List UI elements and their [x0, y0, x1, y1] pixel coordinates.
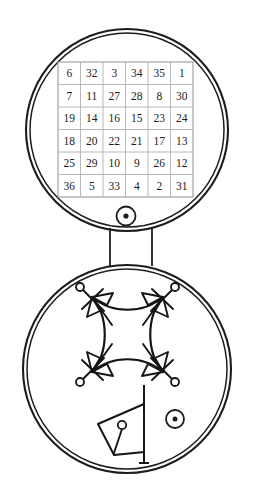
magic-cell: 20: [86, 135, 98, 147]
magic-cell: 36: [64, 180, 76, 192]
sun-dot-icon: [123, 213, 128, 218]
sigil-quadrilateral-group: [98, 404, 144, 455]
magic-cell: 33: [109, 180, 121, 192]
magic-cell: 28: [131, 90, 143, 102]
magic-cell: 7: [66, 90, 72, 102]
quadrilateral-ring-icon: [118, 421, 126, 429]
corner-ring-icon: [171, 283, 179, 291]
magic-cell: 13: [176, 135, 188, 147]
magic-cell: 34: [131, 67, 143, 79]
magic-cell: 31: [176, 180, 188, 192]
magic-cell: 24: [176, 112, 188, 124]
magic-square: 6 32 3 34 35 1 7 11 27 28 8 30 19 14 16 …: [58, 62, 193, 197]
sun-symbol-lower: [166, 410, 184, 428]
medallion-connector: [110, 228, 152, 266]
corner-ring-icon: [171, 378, 179, 386]
magic-cell: 27: [109, 90, 121, 102]
sun-dot-icon: [173, 417, 178, 422]
magic-cell: 22: [109, 135, 121, 147]
magic-cell: 35: [154, 67, 166, 79]
magic-cell: 25: [64, 157, 76, 169]
magic-cell: 12: [176, 157, 188, 169]
lower-disc: [23, 265, 231, 473]
sigil-corner-top-right: [142, 283, 179, 325]
magic-cell: 8: [156, 90, 162, 102]
magic-cell: 19: [64, 112, 76, 124]
magic-cell: 32: [86, 67, 98, 79]
magic-cell: 1: [179, 67, 185, 79]
magic-cell: 29: [86, 157, 98, 169]
lower-disc-outer-ring: [23, 265, 231, 473]
magic-cell: 14: [86, 112, 98, 124]
magic-cell: 3: [111, 67, 117, 79]
corner-ring-icon: [76, 378, 84, 386]
quadrilateral-stem: [114, 429, 122, 453]
magic-cell: 16: [109, 112, 121, 124]
magic-cell: 18: [64, 135, 76, 147]
corner-ring-icon: [76, 283, 84, 291]
magic-cell: 30: [176, 90, 188, 102]
magic-cell: 9: [134, 157, 140, 169]
sigil-concave-square: [92, 297, 163, 372]
sigil-corner-top-left: [76, 283, 113, 325]
magic-cell: 15: [131, 112, 143, 124]
magic-cell: 2: [156, 180, 162, 192]
magic-cell: 26: [154, 157, 166, 169]
magic-cell: 11: [86, 90, 97, 102]
magic-cell: 17: [154, 135, 166, 147]
sigil-staff: [139, 385, 149, 463]
magic-cell: 10: [109, 157, 121, 169]
magic-cell: 23: [154, 112, 166, 124]
sigil-corner-bottom-right: [142, 344, 179, 386]
sigil-corner-bottom-left: [76, 344, 113, 386]
lower-disc-inner-ring: [27, 269, 227, 469]
magic-cell: 6: [66, 67, 72, 79]
sun-symbol-upper: [117, 207, 136, 226]
spirit-sigil: [76, 283, 179, 386]
magic-cell: 21: [131, 135, 143, 147]
magic-cell: 5: [89, 180, 95, 192]
magic-cell: 4: [134, 180, 140, 192]
talisman-figure: 6 32 3 34 35 1 7 11 27 28 8 30 19 14 16 …: [0, 0, 254, 491]
